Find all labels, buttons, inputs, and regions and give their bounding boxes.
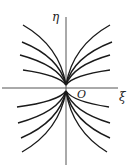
trajectory-curve <box>17 91 66 107</box>
trajectory-curve <box>22 91 66 152</box>
xi-axis-label: ξ <box>119 90 126 104</box>
trajectory-curve <box>66 91 109 107</box>
eta-axis-label: η <box>52 10 59 24</box>
trajectory-curve <box>66 91 107 152</box>
origin-label: O <box>77 88 86 101</box>
trajectory-curve <box>66 70 110 85</box>
trajectory-curve <box>23 70 66 85</box>
phase-diagram <box>0 0 135 167</box>
trajectory-curve <box>18 91 66 123</box>
